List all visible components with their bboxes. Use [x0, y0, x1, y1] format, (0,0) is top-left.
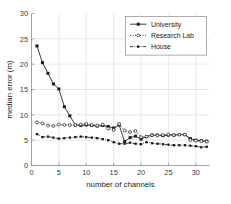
data-point	[107, 127, 110, 130]
data-point	[189, 145, 191, 147]
y-tick-label: 15	[20, 85, 28, 94]
x-tick-label: 25	[164, 168, 172, 177]
data-point	[200, 146, 202, 148]
data-point	[137, 34, 140, 37]
data-point	[173, 144, 175, 146]
y-tick-label: 0	[24, 161, 28, 170]
x-tick-label: 15	[110, 168, 118, 177]
series-house	[36, 133, 208, 148]
data-point	[112, 129, 115, 132]
data-point	[52, 136, 54, 138]
data-point	[129, 136, 132, 139]
data-point	[68, 114, 71, 117]
y-tick-label: 20	[20, 60, 28, 69]
data-point	[162, 143, 164, 145]
data-point	[184, 144, 186, 146]
data-point	[91, 136, 93, 138]
data-point	[167, 144, 169, 146]
data-point	[36, 121, 39, 124]
data-point	[41, 122, 44, 125]
data-point	[129, 131, 132, 134]
median-error-line-chart: 051015202530051015202530 number of chann…	[0, 0, 231, 204]
x-tick-label: 10	[82, 168, 90, 177]
x-tick-label: 5	[57, 168, 61, 177]
data-point	[123, 143, 125, 145]
x-tick-label: 0	[29, 168, 33, 177]
data-point	[58, 137, 60, 139]
data-point	[47, 135, 49, 137]
data-point	[90, 124, 93, 127]
y-tick-label: 30	[20, 9, 28, 18]
data-point	[68, 124, 71, 127]
data-point	[205, 140, 208, 143]
data-point	[113, 141, 115, 143]
data-point	[80, 135, 82, 137]
y-tick-label: 25	[20, 35, 28, 44]
data-point	[206, 146, 208, 148]
data-point	[69, 136, 71, 138]
data-point	[74, 136, 76, 138]
data-point	[129, 142, 131, 144]
data-point	[57, 123, 60, 126]
data-point	[63, 105, 66, 108]
data-point	[96, 124, 99, 127]
data-point	[189, 139, 192, 142]
data-point	[137, 45, 139, 47]
data-point	[172, 134, 175, 137]
legend-label: University	[151, 21, 182, 29]
y-tick-label: 5	[24, 136, 28, 145]
y-axis-title: median error (m)	[5, 60, 14, 118]
series-university	[35, 44, 208, 143]
data-point	[79, 123, 82, 126]
data-point	[137, 23, 140, 26]
data-point	[151, 134, 154, 137]
data-point	[134, 135, 137, 138]
data-point	[151, 142, 153, 144]
data-point	[167, 133, 170, 136]
data-point	[85, 136, 87, 138]
data-point	[36, 133, 38, 135]
data-point	[156, 134, 159, 137]
data-point	[140, 136, 143, 139]
legend-label: Research Lab	[151, 32, 194, 39]
data-point	[118, 143, 120, 145]
data-point	[178, 133, 181, 136]
data-point	[178, 144, 180, 146]
series-line	[37, 134, 207, 147]
data-point	[41, 136, 43, 138]
data-point	[85, 123, 88, 126]
data-point	[194, 139, 197, 142]
data-point	[35, 44, 38, 47]
data-point	[195, 145, 197, 147]
data-point	[41, 61, 44, 64]
data-point	[102, 138, 104, 140]
data-point	[134, 130, 137, 133]
data-point	[74, 124, 77, 127]
data-point	[200, 140, 203, 143]
data-point	[145, 135, 148, 138]
data-point	[46, 124, 49, 127]
data-point	[118, 123, 121, 126]
data-point	[123, 129, 126, 132]
data-point	[57, 87, 60, 90]
data-point	[101, 123, 104, 126]
data-point	[96, 137, 98, 139]
chart-legend: UniversityResearch LabHouse	[126, 17, 207, 56]
x-tick-label: 30	[192, 168, 200, 177]
data-point	[107, 139, 109, 141]
data-point	[63, 137, 65, 139]
y-tick-label: 10	[20, 111, 28, 120]
data-point	[161, 134, 164, 137]
data-point	[183, 133, 186, 136]
data-series	[35, 44, 208, 148]
x-axis-title: number of channels	[86, 180, 155, 189]
data-point	[52, 82, 55, 85]
x-tick-label: 20	[137, 168, 145, 177]
data-point	[46, 72, 49, 75]
data-point	[52, 125, 55, 128]
data-point	[134, 143, 136, 145]
data-point	[63, 124, 66, 127]
data-point	[156, 143, 158, 145]
legend-label: House	[151, 43, 171, 50]
data-point	[140, 143, 142, 145]
